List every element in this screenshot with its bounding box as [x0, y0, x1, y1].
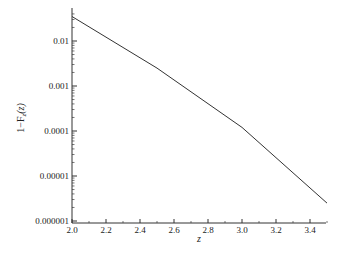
- y-axis-label: 1−Fz(z): [15, 103, 28, 133]
- y-tick-labels: 0.010.0010.00010.000010.000001: [35, 36, 77, 226]
- x-tick-label: 3.0: [236, 225, 248, 235]
- x-tick-label: 2.8: [202, 225, 214, 235]
- x-tick-label: 2.4: [134, 225, 146, 235]
- x-tick-label: 3.4: [304, 225, 316, 235]
- x-axis-label: z: [196, 233, 201, 244]
- y-tick-label: 0.01: [53, 36, 69, 46]
- x-tick-label: 2.2: [100, 225, 111, 235]
- chart-svg: 0.010.0010.00010.000010.000001 2.02.22.4…: [0, 0, 342, 259]
- y-tick-label: 0.000001: [35, 216, 69, 226]
- chart: 0.010.0010.00010.000010.000001 2.02.22.4…: [0, 0, 342, 259]
- data-line: [72, 17, 327, 204]
- y-tick-label: 0.0001: [44, 126, 69, 136]
- x-tick-label: 2.6: [168, 225, 180, 235]
- x-tick-label: 3.2: [270, 225, 281, 235]
- x-tick-label: 2.0: [66, 225, 78, 235]
- y-tick-label: 0.00001: [40, 171, 69, 181]
- y-tick-label: 0.001: [49, 81, 69, 91]
